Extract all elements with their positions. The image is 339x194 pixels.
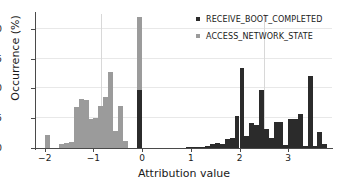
x-tick-label: 1 [179,153,203,163]
y-tick-mark [31,88,35,89]
y-tick-label: 10 [0,84,2,93]
legend-item[interactable]: ACCESS_NETWORK_STATE [196,29,322,43]
y-tick-label: 5 [0,114,2,123]
y-tick-mark [31,148,35,149]
x-tick-label: −2 [33,153,57,163]
chart-legend: RECEIVE_BOOT_COMPLETEDACCESS_NETWORK_STA… [196,12,322,46]
y-tick-mark [31,59,35,60]
legend-item[interactable]: RECEIVE_BOOT_COMPLETED [196,12,322,26]
x-tick-mark [45,149,46,152]
x-tick-mark [288,149,289,152]
legend-label: RECEIVE_BOOT_COMPLETED [206,15,322,24]
x-tick-label: −1 [81,153,105,163]
x-tick-mark [191,149,192,152]
histogram-bar [137,90,142,148]
histogram-bar [298,114,303,148]
x-axis-label: Attribution value [36,168,332,180]
legend-swatch-icon [196,34,200,38]
x-tick-mark [240,149,241,152]
y-axis-line [35,12,36,150]
y-tick-mark [31,118,35,119]
y-tick-mark [31,29,35,30]
y-tick-label: 0 [0,144,2,153]
histogram-bar [45,135,50,148]
y-axis-label: Occurrence (%) [10,0,22,118]
x-tick-label: 0 [130,153,154,163]
legend-swatch-icon [196,17,200,21]
gridline-horizontal [36,87,332,88]
legend-label: ACCESS_NETWORK_STATE [206,32,313,41]
y-tick-label: 20 [0,25,2,34]
histogram-figure: 05101520 −2−10123 Attribution value Occu… [0,0,339,194]
x-tick-mark [93,149,94,152]
x-tick-label: 3 [276,153,300,163]
y-tick-label: 15 [0,55,2,64]
x-tick-mark [142,149,143,152]
histogram-bar [308,76,313,148]
gridline-horizontal [36,58,332,59]
x-tick-label: 2 [228,153,252,163]
